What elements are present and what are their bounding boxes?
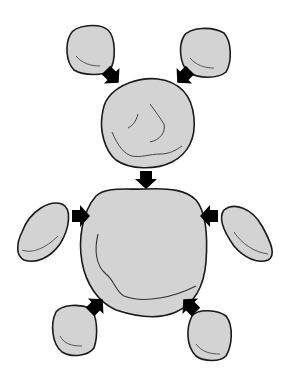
clay-figure-diagram (0, 0, 293, 376)
head (102, 79, 195, 168)
left-leg (53, 305, 97, 355)
body (81, 189, 207, 317)
right-arm (222, 207, 273, 262)
left-arm (18, 203, 69, 261)
right-leg (188, 311, 231, 361)
left-ear (67, 26, 114, 75)
arrow-head-to-body-icon (135, 171, 157, 189)
